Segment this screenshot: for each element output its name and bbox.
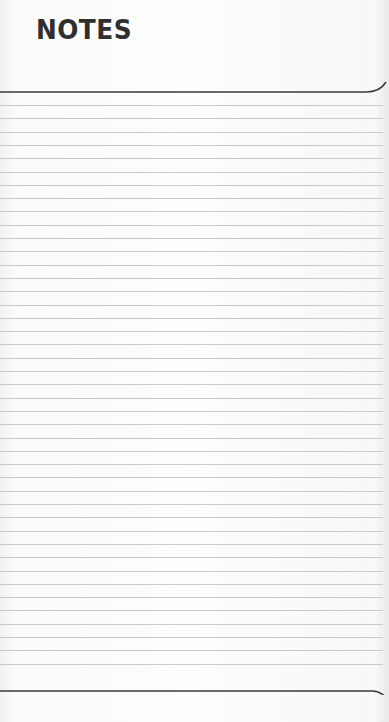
ruled-line — [0, 517, 383, 518]
ruled-line — [0, 650, 383, 651]
ruled-line — [0, 145, 383, 146]
ruled-line — [0, 344, 383, 345]
ruled-line — [0, 597, 383, 598]
ruled-line — [0, 318, 383, 319]
ruled-line — [0, 251, 383, 252]
ruled-line — [0, 438, 383, 439]
ruled-line — [0, 278, 383, 279]
ruled-line — [0, 185, 383, 186]
ruled-line — [0, 571, 383, 572]
ruled-line — [0, 225, 383, 226]
ruled-line — [0, 305, 383, 306]
ruled-line — [0, 624, 383, 625]
ruled-line — [0, 531, 383, 532]
ruled-line — [0, 198, 383, 199]
ruled-line — [0, 371, 383, 372]
ruled-line — [0, 637, 383, 638]
ruled-line — [0, 424, 383, 425]
bottom-rule — [0, 665, 389, 695]
ruled-line — [0, 172, 383, 173]
ruled-line — [0, 477, 383, 478]
ruled-lines — [0, 0, 389, 722]
ruled-line — [0, 491, 383, 492]
ruled-line — [0, 451, 383, 452]
ruled-line — [0, 211, 383, 212]
ruled-line — [0, 504, 383, 505]
ruled-line — [0, 105, 383, 106]
ruled-line — [0, 291, 383, 292]
ruled-line — [0, 358, 383, 359]
ruled-line — [0, 265, 383, 266]
ruled-line — [0, 158, 383, 159]
ruled-line — [0, 238, 383, 239]
ruled-line — [0, 132, 383, 133]
ruled-line — [0, 584, 383, 585]
ruled-line — [0, 610, 383, 611]
notes-page: NOTES — [0, 0, 389, 722]
ruled-line — [0, 398, 383, 399]
ruled-line — [0, 544, 383, 545]
ruled-line — [0, 331, 383, 332]
ruled-line — [0, 464, 383, 465]
ruled-line — [0, 557, 383, 558]
ruled-line — [0, 118, 383, 119]
ruled-line — [0, 384, 383, 385]
ruled-line — [0, 411, 383, 412]
